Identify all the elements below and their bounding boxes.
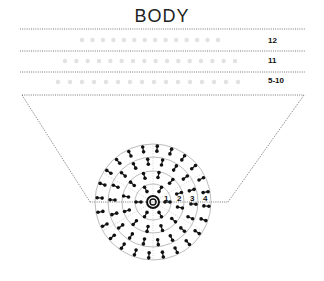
ring-label-3: 3 bbox=[190, 194, 195, 203]
magic-ring-icon bbox=[147, 196, 159, 208]
ring-label-1: 1 bbox=[164, 194, 169, 203]
faint-stitch-rows bbox=[56, 38, 240, 84]
ring-label-4: 4 bbox=[203, 194, 208, 203]
row-dividers bbox=[20, 29, 306, 202]
crochet-chart: 1 2 3 4 bbox=[0, 0, 324, 281]
ring-label-2: 2 bbox=[177, 194, 182, 203]
